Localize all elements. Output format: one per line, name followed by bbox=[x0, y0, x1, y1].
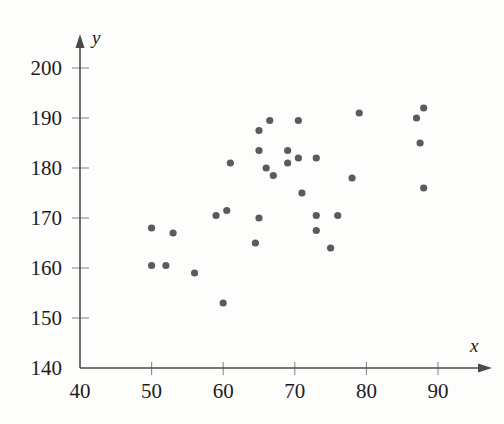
data-point bbox=[255, 127, 262, 134]
data-point bbox=[255, 214, 262, 221]
data-point bbox=[327, 244, 334, 251]
data-point bbox=[162, 262, 169, 269]
data-point bbox=[255, 147, 262, 154]
data-point bbox=[348, 174, 355, 181]
data-point bbox=[212, 212, 219, 219]
x-tick-label: 60 bbox=[213, 379, 234, 403]
y-tick-label: 140 bbox=[31, 356, 63, 380]
data-point bbox=[266, 117, 273, 124]
data-point bbox=[220, 299, 227, 306]
data-point bbox=[284, 147, 291, 154]
data-point bbox=[169, 229, 176, 236]
x-tick-label: 90 bbox=[428, 379, 449, 403]
data-point-group bbox=[148, 104, 427, 306]
y-tick-label: 170 bbox=[31, 206, 63, 230]
x-tick-label: 40 bbox=[70, 379, 91, 403]
data-point bbox=[313, 212, 320, 219]
y-axis-arrowhead bbox=[76, 34, 85, 48]
data-point bbox=[263, 164, 270, 171]
data-point bbox=[417, 139, 424, 146]
data-point bbox=[313, 227, 320, 234]
data-point bbox=[298, 189, 305, 196]
x-tick-label: 80 bbox=[356, 379, 377, 403]
y-tick-label: 150 bbox=[31, 306, 63, 330]
data-point bbox=[313, 154, 320, 161]
data-point bbox=[284, 159, 291, 166]
x-tick-label: 50 bbox=[141, 379, 162, 403]
y-axis-label: y bbox=[90, 27, 101, 48]
data-point bbox=[295, 117, 302, 124]
data-point bbox=[252, 239, 259, 246]
chart-canvas: 140150160170180190200 405060708090 y x bbox=[0, 0, 504, 424]
data-point bbox=[227, 159, 234, 166]
data-point bbox=[148, 262, 155, 269]
data-point bbox=[223, 207, 230, 214]
data-point bbox=[420, 104, 427, 111]
data-point bbox=[191, 269, 198, 276]
y-tick-label: 180 bbox=[31, 156, 63, 180]
y-tick-label: 160 bbox=[31, 256, 63, 280]
data-point bbox=[413, 114, 420, 121]
data-point bbox=[420, 184, 427, 191]
data-point bbox=[295, 154, 302, 161]
x-axis-label: x bbox=[469, 335, 479, 356]
data-point bbox=[148, 224, 155, 231]
scatter-plot-figure: 140150160170180190200 405060708090 y x bbox=[0, 0, 504, 424]
data-point bbox=[270, 172, 277, 179]
y-tick-label: 190 bbox=[31, 106, 63, 130]
data-point bbox=[334, 212, 341, 219]
x-tick-label: 70 bbox=[284, 379, 305, 403]
data-point bbox=[356, 109, 363, 116]
y-tick-label: 200 bbox=[31, 56, 63, 80]
x-axis-arrowhead bbox=[478, 364, 492, 373]
